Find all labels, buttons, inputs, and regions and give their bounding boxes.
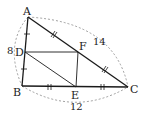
segment-fe [76, 52, 78, 87]
label-b: B [13, 86, 21, 99]
label-c: C [130, 83, 138, 96]
measure-ac: 14 [93, 36, 106, 47]
label-f: F [79, 40, 87, 53]
label-a: A [22, 5, 32, 18]
tick-be [48, 84, 51, 90]
measure-ab: 8 [7, 45, 13, 56]
segment-de [25, 52, 76, 87]
triangle-diagram: A B C D E F 8 14 12 [0, 0, 148, 116]
measure-bc: 12 [70, 101, 83, 112]
label-d: D [15, 46, 24, 59]
